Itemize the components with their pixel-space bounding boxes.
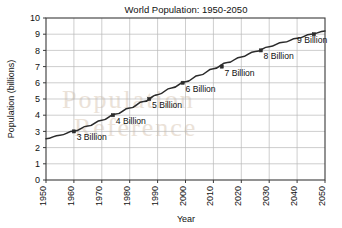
y-tick-label: 2 — [35, 143, 40, 153]
data-point-marker — [220, 65, 223, 68]
data-point-marker — [148, 97, 151, 100]
data-point-marker — [259, 49, 262, 52]
annotation-label: 7 Billion — [225, 68, 255, 78]
y-tick-label: 0 — [35, 175, 40, 185]
annotation-label: 5 Billion — [152, 100, 182, 110]
y-tick-label: 9 — [35, 29, 40, 39]
x-tick-label: 2050 — [317, 186, 327, 206]
y-tick-label: 3 — [35, 127, 40, 137]
x-axis-title: Year — [177, 214, 195, 224]
y-tick-label: 5 — [35, 94, 40, 104]
chart-container: Population Reference World Population: 1… — [0, 0, 342, 228]
y-tick-label: 8 — [35, 46, 40, 56]
annotation-label: 8 Billion — [264, 51, 294, 61]
x-tick-label: 2030 — [261, 186, 271, 206]
annotation-label: 4 Billion — [116, 116, 146, 126]
y-tick-label: 10 — [30, 13, 40, 23]
y-axis-title: Population (billions) — [6, 60, 16, 139]
x-tick-label: 2020 — [233, 186, 243, 206]
chart-title: World Population: 1950-2050 — [125, 4, 248, 15]
annotation-label: 3 Billion — [77, 132, 107, 142]
data-point-marker — [72, 130, 75, 133]
data-point-marker — [111, 114, 114, 117]
x-tick-label: 1980 — [122, 186, 132, 206]
annotation-label: 9 Billion — [297, 35, 327, 45]
x-tick-label: 1950 — [38, 186, 48, 206]
x-tick-label: 1970 — [94, 186, 104, 206]
world-population-line-chart: Population Reference World Population: 1… — [0, 0, 342, 228]
x-tick-label: 2010 — [205, 186, 215, 206]
y-tick-label: 4 — [35, 110, 40, 120]
x-tick-label: 2040 — [289, 186, 299, 206]
annotation-label: 6 Billion — [186, 84, 216, 94]
x-tick-label: 2000 — [178, 186, 188, 206]
x-tick-label: 1960 — [66, 186, 76, 206]
y-tick-label: 7 — [35, 62, 40, 72]
y-tick-label: 6 — [35, 78, 40, 88]
data-point-marker — [181, 81, 184, 84]
y-tick-label: 1 — [35, 159, 40, 169]
x-tick-label: 1990 — [150, 186, 160, 206]
